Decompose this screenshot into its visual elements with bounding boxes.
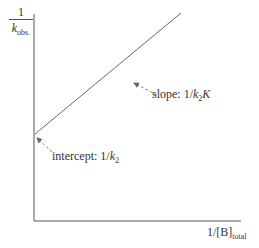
x-axis-label-main: 1/[B]: [207, 225, 232, 239]
x-axis-label-subscript: total: [232, 232, 246, 241]
slope-label: slope: 1/k2K: [152, 88, 210, 103]
obs-subscript: obs.: [17, 28, 30, 37]
y-axis-label-numerator: 1: [9, 6, 33, 20]
y-axis-label: 1 kobs.: [9, 6, 33, 40]
intercept-k-subscript: 2: [115, 156, 119, 165]
slope-K: K: [202, 87, 210, 101]
intercept-label: intercept: 1/k2: [52, 150, 119, 165]
intercept-arrow: [37, 138, 52, 152]
intercept-prefix: intercept: 1/: [52, 149, 110, 163]
plot-canvas: [0, 0, 259, 248]
data-line: [35, 13, 181, 134]
y-axis-label-denominator: kobs.: [9, 20, 33, 40]
slope-prefix: slope: 1/: [152, 87, 193, 101]
x-axis-label: 1/[B]total: [207, 226, 247, 241]
